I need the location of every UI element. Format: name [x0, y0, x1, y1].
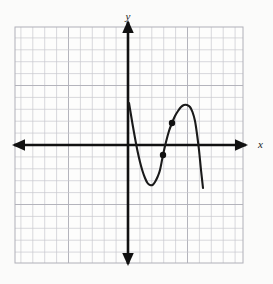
y-axis-label: y [125, 10, 131, 22]
point-upper [169, 120, 175, 126]
graph-screenshot: y x [0, 0, 273, 284]
point-lower [160, 152, 166, 158]
x-axis-label: x [257, 138, 263, 150]
coordinate-plane-figure: y x [0, 0, 273, 284]
